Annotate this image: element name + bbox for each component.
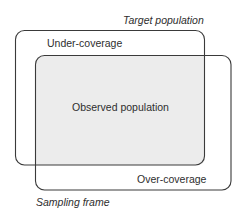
- observed-population-label: Observed population: [72, 102, 169, 113]
- under-coverage-label: Under-coverage: [47, 38, 122, 49]
- over-coverage-label: Over-coverage: [137, 174, 206, 185]
- sampling-frame-label: Sampling frame: [36, 197, 110, 208]
- target-population-label: Target population: [123, 15, 204, 26]
